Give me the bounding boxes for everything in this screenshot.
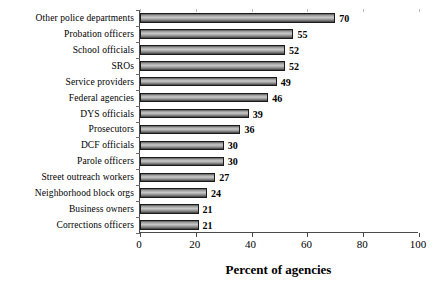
x-axis-tick-top: [307, 9, 308, 12]
x-axis-tick: [196, 233, 197, 237]
x-axis-tick-label: 40: [245, 238, 256, 250]
plot-area: 7055525249463936303027242121: [139, 10, 418, 233]
bar-value-label: 55: [297, 28, 307, 39]
category-label: Probation officers: [0, 29, 134, 39]
bar-value-label: 30: [228, 156, 238, 167]
category-label: Service providers: [0, 77, 134, 87]
bar-row: 30: [140, 141, 418, 151]
bar: [140, 77, 277, 87]
bar: [140, 173, 215, 183]
y-axis-tick: [136, 201, 140, 202]
x-axis-tick-label: 80: [357, 238, 368, 250]
bar: [140, 220, 199, 230]
bar: [140, 141, 224, 151]
x-axis-tick: [140, 233, 141, 237]
bar-value-label: 49: [281, 76, 291, 87]
x-axis-tick-top: [196, 9, 197, 12]
category-label: DYS officials: [0, 109, 134, 119]
bar: [140, 109, 249, 119]
y-axis-tick: [136, 122, 140, 123]
x-axis-tick-label: 0: [136, 238, 142, 250]
bar-row: 36: [140, 125, 418, 135]
y-axis-tick: [136, 185, 140, 186]
category-label: DCF officials: [0, 140, 134, 150]
bar: [140, 45, 285, 55]
category-label: Business owners: [0, 204, 134, 214]
category-label: Street outreach workers: [0, 172, 134, 182]
category-label: Federal agencies: [0, 93, 134, 103]
x-axis-title: Percent of agencies: [139, 262, 418, 278]
category-axis-labels: Other police departmentsProbation office…: [0, 10, 134, 233]
bar-row: 55: [140, 29, 418, 39]
bar-value-label: 30: [228, 140, 238, 151]
x-axis-tick: [307, 233, 308, 237]
category-label: SROs: [0, 61, 134, 71]
bar-row: 27: [140, 173, 418, 183]
bar-value-label: 39: [253, 108, 263, 119]
bar-row: 52: [140, 45, 418, 55]
bar-value-label: 21: [203, 204, 213, 215]
bar-value-label: 27: [219, 172, 229, 183]
bar-row: 46: [140, 93, 418, 103]
category-label: Parole officers: [0, 156, 134, 166]
bar-row: 70: [140, 13, 418, 23]
y-axis-tick: [136, 217, 140, 218]
bar-value-label: 52: [289, 44, 299, 55]
x-axis-tick-top: [363, 9, 364, 12]
bar-row: 52: [140, 61, 418, 71]
bar: [140, 188, 207, 198]
x-axis-tick-top: [419, 9, 420, 12]
bar-row: 39: [140, 109, 418, 119]
bar: [140, 29, 293, 39]
bar-row: 30: [140, 157, 418, 167]
bar: [140, 125, 240, 135]
bar-row: 24: [140, 188, 418, 198]
y-axis-tick: [136, 153, 140, 154]
bar: [140, 61, 285, 71]
category-label: Other police departments: [0, 13, 134, 23]
y-axis-tick: [136, 74, 140, 75]
x-axis-tick-top: [252, 9, 253, 12]
bar-value-label: 21: [203, 220, 213, 231]
bar-value-label: 70: [339, 12, 349, 23]
bar-chart: Other police departmentsProbation office…: [0, 0, 438, 290]
y-axis-tick: [136, 42, 140, 43]
x-axis-tick: [252, 233, 253, 237]
y-axis-tick: [136, 169, 140, 170]
y-axis-tick: [136, 106, 140, 107]
bar: [140, 157, 224, 167]
bar-row: 49: [140, 77, 418, 87]
x-axis-tick-top: [140, 9, 141, 12]
bar: [140, 204, 199, 214]
category-label: School officials: [0, 45, 134, 55]
category-label: Corrections officers: [0, 220, 134, 230]
bar-value-label: 24: [211, 188, 221, 199]
y-axis-tick: [136, 26, 140, 27]
x-axis-tick: [363, 233, 364, 237]
y-axis-tick: [136, 137, 140, 138]
x-axis-tick: [419, 233, 420, 237]
bar: [140, 13, 335, 23]
y-axis-tick: [136, 58, 140, 59]
y-axis-tick: [136, 90, 140, 91]
bar-value-label: 46: [272, 92, 282, 103]
category-label: Neighborhood block orgs: [0, 188, 134, 198]
x-axis-tick-label: 20: [189, 238, 200, 250]
bar-value-label: 52: [289, 60, 299, 71]
bar: [140, 93, 268, 103]
bar-row: 21: [140, 220, 418, 230]
bar-row: 21: [140, 204, 418, 214]
bar-value-label: 36: [244, 124, 254, 135]
x-axis-tick-labels: 020406080100: [139, 238, 418, 252]
x-axis-tick-label: 100: [410, 238, 427, 250]
category-label: Prosecutors: [0, 124, 134, 134]
x-axis-tick-label: 60: [301, 238, 312, 250]
